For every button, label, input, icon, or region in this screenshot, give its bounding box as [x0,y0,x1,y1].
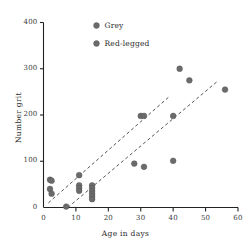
y-tick-label-300: 300 [0,64,38,72]
x-tick-label-50: 50 [196,214,216,222]
data-point-red-legged-7 [141,164,147,170]
data-point-red-legged-6 [131,161,137,167]
x-tick-label-30: 30 [131,214,151,222]
data-point-grey-7 [76,188,82,194]
scatter-chart: 01002003004000102030405060 Number grit A… [0,0,251,242]
y-tick-label-100: 100 [0,156,38,164]
data-point-red-legged-5 [89,196,95,202]
x-tick-label-10: 10 [66,214,86,222]
x-tick-label-0: 0 [34,214,54,222]
data-point-grey-13 [222,87,228,93]
data-point-red-legged-9 [170,113,176,119]
data-point-red-legged-8 [170,158,176,164]
data-point-grey-1 [49,178,55,184]
x-tick-label-60: 60 [228,214,248,222]
x-tick-label-20: 20 [98,214,118,222]
data-point-grey-3 [49,191,55,197]
data-point-grey-11 [177,66,183,72]
y-tick-label-0: 0 [0,203,38,211]
legend-item-red-legged-label: Red-legged [105,39,150,48]
trendlines [48,82,217,208]
data-point-grey-4 [76,172,82,178]
data-point-grey-12 [186,77,192,83]
data-point-grey-10 [141,113,147,119]
legend-marker-red-legged [94,41,100,47]
x-axis-label: Age in days [0,229,251,238]
legend-marker-grey [94,23,100,29]
y-axis-label: Number grit [14,92,23,143]
plot-area-svg [0,0,251,242]
data-points [47,66,228,210]
y-tick-label-400: 400 [0,18,38,26]
data-point-grey-8 [63,204,69,210]
grey-trendline [48,97,168,202]
x-tick-label-40: 40 [163,214,183,222]
legend-item-grey-label: Grey [105,21,124,30]
legend-markers [94,23,100,47]
